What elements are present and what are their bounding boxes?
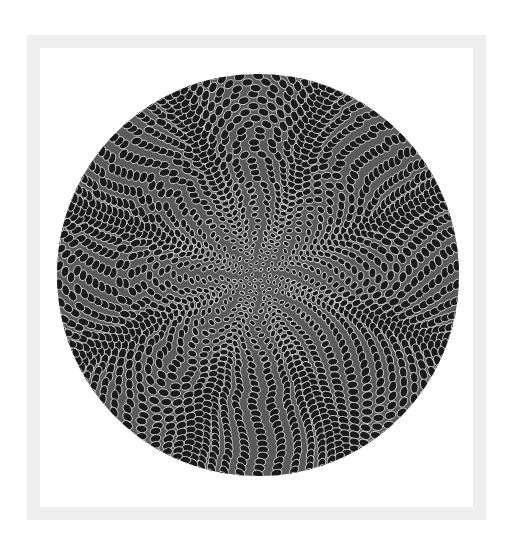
spiral-pattern-artwork [0, 0, 509, 543]
